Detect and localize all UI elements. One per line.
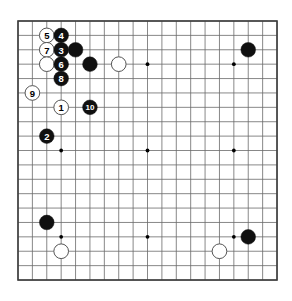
star-point (59, 149, 63, 153)
move-number-label: 6 (59, 59, 64, 70)
stone-disc (241, 42, 256, 57)
stone-disc (111, 57, 126, 72)
stone-disc (39, 57, 54, 72)
black-stone[interactable]: 10 (83, 100, 98, 115)
stone-disc (83, 57, 98, 72)
move-number-label: 7 (44, 45, 49, 56)
white-stone[interactable] (54, 244, 69, 259)
white-stone[interactable] (111, 57, 126, 72)
black-stone[interactable] (241, 230, 256, 245)
white-stone[interactable]: 5 (39, 28, 54, 43)
star-point (146, 62, 150, 66)
black-stone[interactable]: 2 (39, 129, 54, 144)
stone-disc (68, 42, 83, 57)
move-number-label: 10 (85, 103, 94, 112)
black-stone[interactable]: 4 (54, 28, 69, 43)
stone-disc (39, 215, 54, 230)
move-number-label: 8 (59, 73, 64, 84)
star-point (59, 235, 63, 239)
move-number-label: 3 (59, 45, 64, 56)
move-number-label: 4 (59, 30, 65, 41)
black-stone[interactable] (39, 215, 54, 230)
stone-disc (241, 230, 256, 245)
stone-disc (54, 244, 69, 259)
black-stone[interactable] (68, 42, 83, 57)
white-stone[interactable]: 1 (54, 100, 69, 115)
stone-disc (212, 244, 227, 259)
white-stone[interactable] (212, 244, 227, 259)
move-number-label: 2 (44, 131, 49, 142)
white-stone[interactable] (39, 57, 54, 72)
black-stone[interactable]: 6 (54, 57, 69, 72)
black-stone[interactable]: 8 (54, 71, 69, 86)
black-stone[interactable]: 3 (54, 42, 69, 57)
white-stone[interactable]: 7 (39, 42, 54, 57)
move-number-label: 1 (59, 102, 65, 113)
go-diagram-screenshot: 54736891102 (0, 0, 292, 301)
white-stone[interactable]: 9 (25, 86, 40, 101)
star-point (232, 235, 236, 239)
star-point (232, 62, 236, 66)
move-number-label: 9 (30, 88, 35, 99)
black-stone[interactable] (241, 42, 256, 57)
move-number-label: 5 (44, 30, 50, 41)
go-board-container[interactable]: 54736891102 (0, 0, 292, 301)
star-point (146, 149, 150, 153)
star-point (232, 149, 236, 153)
star-point (146, 235, 150, 239)
go-board[interactable]: 54736891102 (0, 0, 292, 301)
black-stone[interactable] (83, 57, 98, 72)
